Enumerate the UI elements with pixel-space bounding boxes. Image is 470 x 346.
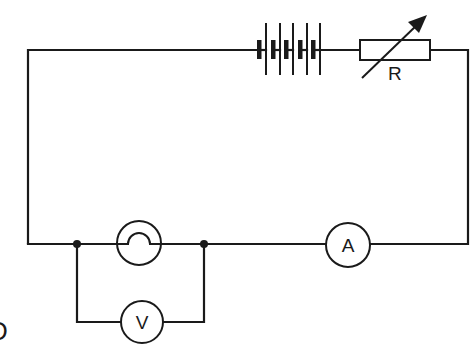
circuit-diagram: R A V D (0, 0, 470, 346)
voltmeter-symbol: V (121, 301, 163, 343)
junction-dot-right (200, 240, 208, 248)
rheostat-label: R (388, 63, 402, 84)
wires (28, 50, 468, 322)
rheostat-symbol: R (360, 15, 430, 84)
battery-symbol (257, 23, 320, 75)
wire-top-left (28, 50, 259, 243)
voltmeter-label: V (136, 312, 149, 333)
junction-dot-left (73, 240, 81, 248)
wire-top-right (371, 50, 468, 244)
wire-voltmeter-left (77, 244, 121, 322)
wire-voltmeter-right (163, 244, 204, 322)
ammeter-label: A (342, 235, 355, 256)
lamp-symbol (117, 221, 161, 265)
resistor-body (360, 40, 430, 60)
ammeter-symbol: A (326, 223, 370, 267)
edge-label: D (0, 316, 8, 346)
